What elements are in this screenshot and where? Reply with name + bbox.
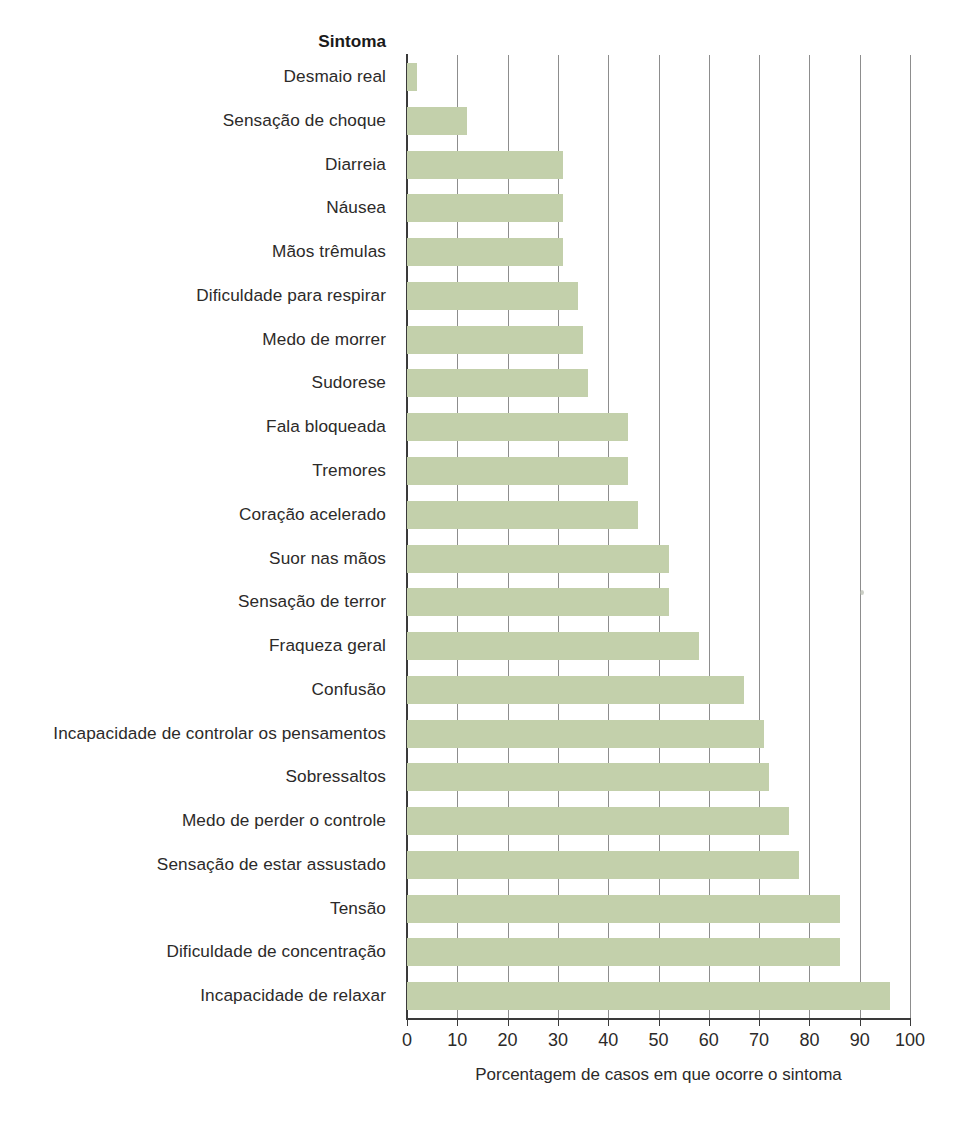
plot-area: 0102030405060708090100 (407, 55, 910, 1018)
category-axis-title: Sintoma (318, 28, 386, 55)
category-label: Incapacidade de controlar os pensamentos (53, 712, 386, 756)
bar (407, 851, 799, 879)
bar (407, 326, 583, 354)
bar (407, 107, 467, 135)
bar-row (407, 799, 910, 843)
bar-row (407, 318, 910, 362)
bar (407, 194, 563, 222)
x-axis-tick (860, 1018, 861, 1026)
category-labels-column: Sintoma Desmaio realSensação de choqueDi… (0, 28, 398, 1023)
category-label: Mãos trêmulas (272, 230, 386, 274)
category-label: Sensação de terror (238, 580, 386, 624)
scan-speck (860, 590, 864, 595)
bar-row (407, 230, 910, 274)
x-axis-title: Porcentagem de casos em que ocorre o sin… (407, 1065, 910, 1085)
bar-row (407, 186, 910, 230)
category-label: Fraqueza geral (269, 624, 386, 668)
category-label: Sensação de choque (223, 99, 386, 143)
bar (407, 501, 638, 529)
bar-row (407, 843, 910, 887)
category-label: Sobressaltos (285, 755, 386, 799)
category-label: Náusea (326, 186, 386, 230)
x-axis-tick (608, 1018, 609, 1026)
category-label: Sensação de estar assustado (157, 843, 386, 887)
x-axis-tick (659, 1018, 660, 1026)
x-axis-tick (709, 1018, 710, 1026)
x-axis-tick-label: 80 (799, 1030, 819, 1051)
bar-row (407, 449, 910, 493)
bar-row (407, 755, 910, 799)
category-label: Fala bloqueada (266, 405, 386, 449)
category-label: Dificuldade de concentração (166, 930, 386, 974)
x-axis-tick-label: 20 (498, 1030, 518, 1051)
x-axis-tick-label: 30 (548, 1030, 568, 1051)
bar-row (407, 493, 910, 537)
bar (407, 413, 628, 441)
bar-row (407, 99, 910, 143)
bar (407, 282, 578, 310)
bar (407, 545, 669, 573)
bar-row (407, 712, 910, 756)
category-label: Dificuldade para respirar (196, 274, 386, 318)
bar-chart-figure: Sintoma Desmaio realSensação de choqueDi… (0, 0, 971, 1135)
x-axis-tick-label: 90 (850, 1030, 870, 1051)
category-label: Incapacidade de relaxar (200, 974, 386, 1018)
category-label: Sudorese (312, 361, 386, 405)
x-axis-tick (457, 1018, 458, 1026)
bar (407, 895, 840, 923)
bar-row (407, 537, 910, 581)
bar (407, 676, 744, 704)
category-label: Medo de morrer (262, 318, 386, 362)
category-label: Confusão (312, 668, 386, 712)
bar (407, 457, 628, 485)
x-axis-tick (508, 1018, 509, 1026)
bar-row (407, 930, 910, 974)
x-axis-tick-label: 60 (699, 1030, 719, 1051)
category-label: Tremores (312, 449, 386, 493)
x-axis-tick-label: 0 (402, 1030, 412, 1051)
bar (407, 588, 669, 616)
x-axis-tick (558, 1018, 559, 1026)
x-axis-tick (910, 1018, 911, 1026)
category-label: Suor nas mãos (269, 537, 386, 581)
category-label: Medo de perder o controle (182, 799, 386, 843)
x-axis-tick-label: 10 (447, 1030, 467, 1051)
category-label: Tensão (330, 887, 386, 931)
bar (407, 982, 890, 1010)
bar-row (407, 624, 910, 668)
bar (407, 632, 699, 660)
category-label: Coração acelerado (239, 493, 386, 537)
x-axis-tick (407, 1018, 408, 1026)
category-label: Diarreia (325, 143, 386, 187)
gridline (910, 55, 911, 1018)
bar (407, 938, 840, 966)
bar-row (407, 55, 910, 99)
category-label: Desmaio real (284, 55, 386, 99)
bar-row (407, 668, 910, 712)
bar-row (407, 361, 910, 405)
x-axis-tick (759, 1018, 760, 1026)
bar (407, 720, 764, 748)
x-axis-tick-label: 100 (895, 1030, 925, 1051)
x-axis-tick-label: 70 (749, 1030, 769, 1051)
bar-row (407, 405, 910, 449)
bar-row (407, 887, 910, 931)
bar-row (407, 974, 910, 1018)
bar (407, 238, 563, 266)
bar-row (407, 580, 910, 624)
bar-row (407, 143, 910, 187)
x-axis-tick-label: 50 (648, 1030, 668, 1051)
x-axis-tick-label: 40 (598, 1030, 618, 1051)
x-axis-tick (809, 1018, 810, 1026)
bar-row (407, 274, 910, 318)
bar (407, 807, 789, 835)
bar (407, 369, 588, 397)
bar (407, 151, 563, 179)
bar (407, 763, 769, 791)
bar (407, 63, 417, 91)
